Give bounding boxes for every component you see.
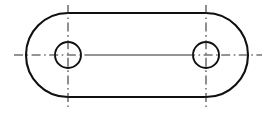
technical-drawing-canvas: [0, 0, 273, 118]
engineering-drawing-svg: [0, 0, 273, 118]
